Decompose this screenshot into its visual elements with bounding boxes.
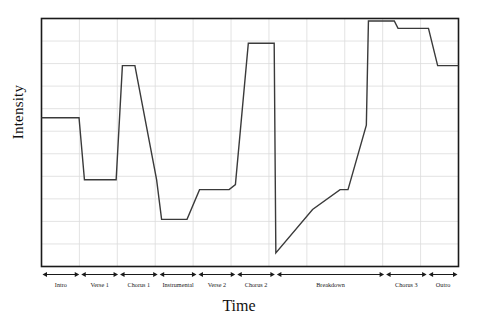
intensity-line bbox=[42, 21, 459, 253]
section-arrow-left bbox=[81, 272, 86, 277]
section-arrow-left bbox=[198, 272, 203, 277]
gridlines bbox=[42, 19, 459, 267]
section-arrow-left bbox=[429, 272, 434, 277]
section-arrow-left bbox=[43, 272, 48, 277]
section-arrow-right bbox=[380, 272, 385, 277]
plot-area bbox=[0, 0, 478, 319]
intensity-over-time-chart: Intensity IntroVerse 1Chorus 1Instrument… bbox=[0, 0, 478, 319]
section-arrow-right bbox=[453, 272, 458, 277]
section-arrow-right bbox=[153, 272, 158, 277]
plot-frame bbox=[42, 19, 459, 267]
section-arrow-right bbox=[231, 272, 236, 277]
section-arrow-right bbox=[192, 272, 197, 277]
section-arrow-right bbox=[114, 272, 119, 277]
section-arrow-left bbox=[120, 272, 125, 277]
section-arrow-left bbox=[237, 272, 242, 277]
section-arrow-left bbox=[160, 272, 165, 277]
section-arrow-right bbox=[75, 272, 80, 277]
x-axis-title: Time bbox=[0, 297, 478, 315]
section-arrow-right bbox=[270, 272, 275, 277]
section-axis bbox=[43, 272, 458, 277]
section-arrow-left bbox=[277, 272, 282, 277]
section-arrow-left bbox=[386, 272, 391, 277]
section-label-outro: Outro bbox=[408, 281, 478, 289]
section-arrow-right bbox=[422, 272, 427, 277]
